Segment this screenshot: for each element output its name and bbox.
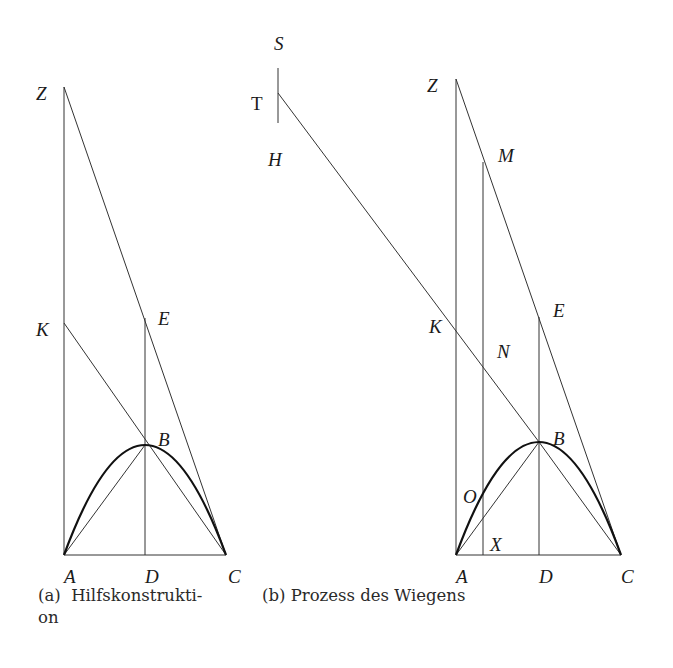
line-AB [64, 445, 145, 555]
caption-a-line2: on [38, 607, 202, 629]
caption-a: (a) Hilfskonstrukti- on [38, 585, 202, 629]
label-D: D [538, 566, 553, 587]
label-T: T [251, 93, 263, 114]
label-C: C [228, 566, 241, 587]
label-K: K [35, 319, 50, 340]
label-C: C [621, 566, 634, 587]
label-N: N [496, 341, 511, 362]
label-Z: Z [427, 75, 438, 96]
label-K: K [428, 316, 443, 337]
label-A: A [62, 566, 76, 587]
label-E: E [552, 300, 565, 321]
figure-a-labels: Z K E B A D C [35, 83, 241, 587]
figure-b-labels: S T H Z M E K N B O X A D C [251, 33, 634, 587]
label-E: E [157, 308, 170, 329]
label-Z: Z [36, 83, 47, 104]
figure-a-geometry [64, 87, 226, 555]
caption-a-line1: (a) Hilfskonstrukti- [38, 585, 202, 607]
label-B: B [158, 429, 170, 450]
label-B: B [553, 428, 565, 449]
caption-b: (b) Prozess des Wiegens [262, 585, 465, 607]
line-BC [539, 442, 621, 555]
label-D: D [144, 566, 159, 587]
label-M: M [497, 145, 515, 166]
label-X: X [489, 534, 503, 555]
figure-b-geometry [278, 68, 621, 555]
label-A: A [454, 566, 468, 587]
diagram-canvas: Z K E B A D C S T H Z M E K N B O X A D … [0, 0, 673, 668]
label-H: H [267, 149, 283, 170]
label-O: O [463, 486, 477, 507]
label-S: S [274, 33, 284, 54]
